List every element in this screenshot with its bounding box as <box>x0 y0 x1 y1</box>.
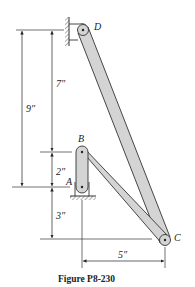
dim-5-label: 5″ <box>118 249 128 260</box>
dim-2-label: 2″ <box>56 166 66 177</box>
figure-caption: Figure P8-230 <box>58 274 115 284</box>
dim-9-label: 9″ <box>26 103 36 114</box>
link-dc <box>78 25 171 244</box>
pin-d-dot <box>82 29 84 31</box>
mechanism-diagram: 9″ 7″ 2″ 3″ 5″ D B A C Figure P8-230 <box>0 0 195 287</box>
point-label-a: A <box>65 176 73 187</box>
point-label-b: B <box>78 133 84 144</box>
point-label-c: C <box>174 232 181 243</box>
pin-a-dot <box>81 186 83 188</box>
point-label-d: D <box>93 21 102 32</box>
dim-3-label: 3″ <box>55 210 66 221</box>
dim-7-label: 7″ <box>56 78 66 89</box>
pin-b-dot <box>81 151 83 153</box>
pin-c-dot <box>164 239 166 241</box>
extension-lines <box>12 30 165 268</box>
